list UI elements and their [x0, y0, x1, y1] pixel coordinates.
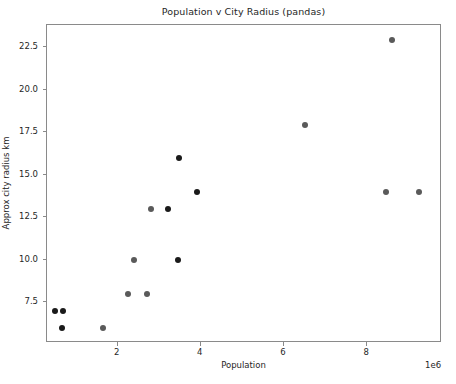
- chart-figure: Population v City Radius (pandas) 2468 7…: [0, 0, 456, 384]
- data-point: [52, 308, 58, 314]
- x-axis-label: Population: [46, 360, 441, 370]
- y-tick-mark: [43, 174, 47, 175]
- y-tick-label: 7.5: [24, 296, 38, 306]
- data-point: [416, 189, 422, 195]
- y-tick-mark: [43, 89, 47, 90]
- scatter-points-layer: [47, 25, 440, 341]
- data-point: [60, 308, 66, 314]
- y-tick-label: 15.0: [19, 169, 38, 179]
- data-point: [144, 291, 150, 297]
- data-point: [165, 206, 171, 212]
- data-point: [131, 257, 137, 263]
- y-tick-mark: [43, 216, 47, 217]
- data-point: [194, 189, 200, 195]
- data-point: [302, 122, 308, 128]
- x-tick-mark: [283, 342, 284, 346]
- plot-area[interactable]: [46, 24, 441, 342]
- data-point: [389, 37, 395, 43]
- y-tick-mark: [43, 301, 47, 302]
- x-tick-mark: [117, 342, 118, 346]
- x-tick-label: 8: [363, 347, 368, 357]
- data-point: [100, 325, 106, 331]
- x-tick-label: 6: [280, 347, 285, 357]
- y-tick-label: 20.0: [19, 84, 38, 94]
- y-tick-mark: [43, 131, 47, 132]
- y-tick-label: 10.0: [19, 254, 38, 264]
- x-tick-mark: [200, 342, 201, 346]
- x-tick-mark: [366, 342, 367, 346]
- x-tick-label: 2: [114, 347, 119, 357]
- x-tick-label: 4: [197, 347, 202, 357]
- data-point: [148, 206, 154, 212]
- data-point: [176, 155, 182, 161]
- x-axis-offset-text: 1e6: [425, 360, 441, 370]
- y-axis-label: Approx city radius km: [1, 137, 11, 230]
- y-tick-mark: [43, 259, 47, 260]
- chart-title: Population v City Radius (pandas): [46, 6, 441, 17]
- data-point: [125, 291, 131, 297]
- y-tick-mark: [43, 46, 47, 47]
- data-point: [59, 325, 65, 331]
- y-tick-label: 22.5: [19, 41, 38, 51]
- data-point: [175, 257, 181, 263]
- y-tick-label: 12.5: [19, 211, 38, 221]
- data-point: [383, 189, 389, 195]
- y-tick-label: 17.5: [19, 126, 38, 136]
